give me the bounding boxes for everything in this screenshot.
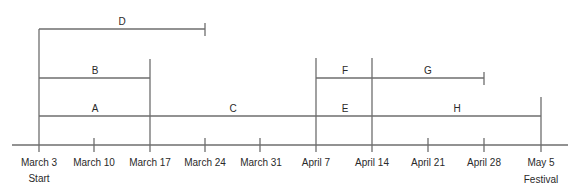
activity-c-label: C xyxy=(229,103,236,114)
timeline-diagram: D B F G A C E H March 3 Start March 10 M… xyxy=(0,0,584,195)
axis-label-may-5: May 5 xyxy=(527,157,555,168)
axis-label-march-31: March 31 xyxy=(240,157,282,168)
axis-label-april-7: April 7 xyxy=(302,157,331,168)
axis-label-april-21: April 21 xyxy=(411,157,445,168)
axis-sublabel-festival: Festival xyxy=(524,174,558,185)
activity-e-label: E xyxy=(342,103,349,114)
activity-b-label: B xyxy=(92,65,99,76)
axis-labels: March 3 Start March 10 March 17 March 24… xyxy=(21,157,558,185)
activity-d-label: D xyxy=(118,16,125,27)
axis-label-april-28: April 28 xyxy=(467,157,501,168)
activity-a-label: A xyxy=(92,103,99,114)
axis-label-march-10: March 10 xyxy=(73,157,115,168)
activity-g-label: G xyxy=(424,65,432,76)
axis-sublabel-start: Start xyxy=(28,173,49,184)
axis-label-march-24: March 24 xyxy=(184,157,226,168)
axis-label-april-14: April 14 xyxy=(355,157,389,168)
axis-label-march-3: March 3 xyxy=(21,157,58,168)
axis-label-march-17: March 17 xyxy=(129,157,171,168)
activity-h-label: H xyxy=(453,103,460,114)
activity-f-label: F xyxy=(342,65,348,76)
